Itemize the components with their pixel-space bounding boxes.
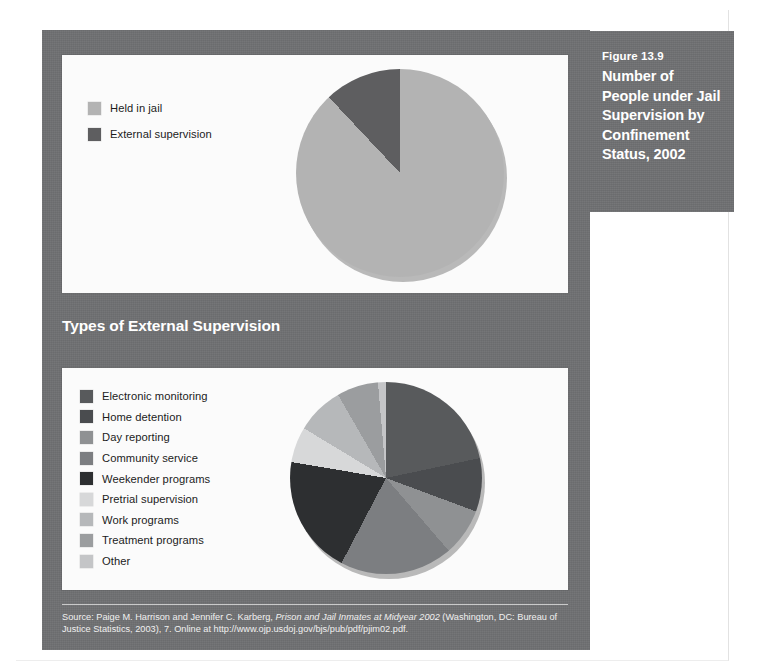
figure-page: Figure 13.9 Number of People under Jail … [0,0,762,672]
legend-label: Electronic monitoring [102,390,208,402]
legend-swatch-icon [88,128,101,141]
figure-number: Figure 13.9 [602,49,722,64]
legend-item: Other [80,551,210,572]
legend-label: Work programs [102,514,179,526]
legend-swatch-icon [80,472,93,485]
legend-swatch-icon [80,410,93,423]
legend-item: Treatment programs [80,530,210,551]
legend-swatch-icon [80,555,93,568]
source-line-1-prefix: Source: Paige M. Harrison and Jennifer C… [62,612,275,622]
pie-chart-external-supervision [290,382,482,574]
legend-label: Community service [102,452,198,464]
legend-swatch-icon [80,493,93,506]
legend-item: Home detention [80,407,210,428]
legend-item: Weekender programs [80,468,210,489]
pie-slices [296,69,504,277]
legend-label: Treatment programs [102,534,204,546]
pie-chart-confinement-status [296,69,504,277]
figure-title: Number of People under Jail Supervision … [602,67,722,165]
chart-card-confinement-status: Held in jailExternal supervision [62,55,568,293]
legend-item: Pretrial supervision [80,489,210,510]
chart-card-external-supervision: Electronic monitoringHome detentionDay r… [62,368,568,590]
legend-label: Pretrial supervision [102,493,198,505]
legend-label: Day reporting [102,431,170,443]
source-line-1-italic: Prison and Jail Inmates at Midyear 2002 [275,612,439,622]
legend-external-supervision: Electronic monitoringHome detentionDay r… [80,386,210,571]
legend-swatch-icon [80,534,93,547]
legend-item: Electronic monitoring [80,386,210,407]
source-line-2: 7. Online at http://www.ojp.usdoj.gov/bj… [164,624,408,634]
legend-swatch-icon [80,452,93,465]
legend-label: Other [102,555,130,567]
legend-confinement-status: Held in jailExternal supervision [88,95,212,147]
legend-label: Weekender programs [102,473,210,485]
pie-slices [290,382,482,574]
source-note: Source: Paige M. Harrison and Jennifer C… [62,611,570,636]
legend-label: Home detention [102,411,182,423]
legend-swatch-icon [80,431,93,444]
legend-swatch-icon [80,390,93,403]
section-heading: Types of External Supervision [62,317,280,335]
figure-caption-box: Figure 13.9 Number of People under Jail … [588,31,734,212]
source-divider [62,604,568,605]
legend-item: Held in jail [88,95,212,121]
legend-item: Day reporting [80,427,210,448]
legend-item: Community service [80,448,210,469]
legend-item: External supervision [88,121,212,147]
legend-swatch-icon [88,102,101,115]
legend-item: Work programs [80,510,210,531]
legend-label: External supervision [110,128,212,140]
legend-label: Held in jail [110,102,162,114]
legend-swatch-icon [80,513,93,526]
